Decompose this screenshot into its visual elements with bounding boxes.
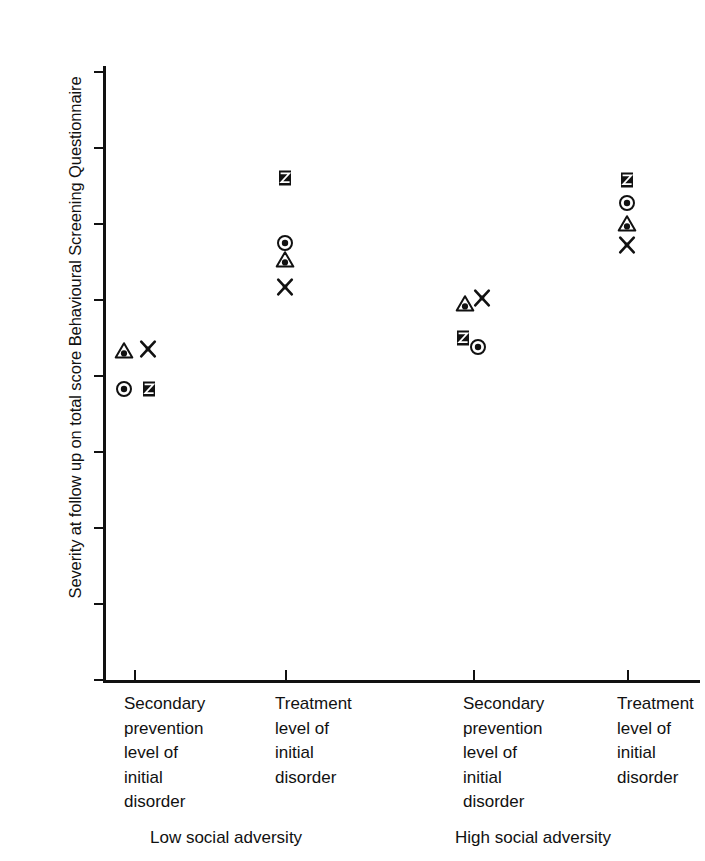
x-tick-1 (285, 670, 287, 683)
x-tick-3 (627, 670, 629, 683)
y-tick-8 (94, 375, 104, 377)
x-category-label-0: Secondary prevention level of initial di… (124, 692, 205, 815)
x-cross-icon (471, 287, 493, 313)
circle-dot-icon (113, 378, 135, 404)
plot-area: 0246810121416 (103, 66, 700, 682)
y-tick-0 (94, 679, 104, 681)
x-tick-0 (134, 670, 136, 683)
triangle-dot-icon (274, 249, 296, 275)
y-tick-10 (94, 299, 104, 301)
z-square-icon (274, 167, 296, 193)
y-tick-4 (94, 527, 104, 529)
x-category-label-1: Treatment level of initial disorder (275, 692, 352, 790)
y-tick-12 (94, 223, 104, 225)
y-axis-title: Severity at follow up on total score Beh… (66, 8, 85, 668)
x-group-label-0: Low social adversity (150, 828, 302, 848)
x-category-label-3: Treatment level of initial disorder (617, 692, 694, 790)
z-square-icon (138, 378, 160, 404)
y-tick-14 (94, 147, 104, 149)
triangle-dot-icon (113, 340, 135, 366)
x-axis-line (103, 680, 700, 683)
y-tick-6 (94, 451, 104, 453)
x-cross-icon (274, 276, 296, 302)
chart-figure: Severity at follow up on total score Beh… (0, 0, 705, 861)
x-tick-2 (473, 670, 475, 683)
x-cross-icon (137, 338, 159, 364)
x-group-label-1: High social adversity (455, 828, 611, 848)
y-tick-2 (94, 603, 104, 605)
circle-dot-icon (467, 336, 489, 362)
y-tick-16 (94, 71, 104, 73)
x-category-label-2: Secondary prevention level of initial di… (463, 692, 544, 815)
x-cross-icon (616, 234, 638, 260)
